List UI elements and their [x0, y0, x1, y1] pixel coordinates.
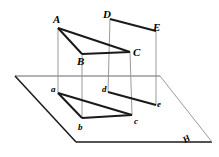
vertex-label-c: c — [134, 117, 138, 126]
edge-D-E — [110, 19, 156, 31]
vertex-label-e: e — [157, 100, 161, 109]
vertex-label-b: b — [78, 123, 83, 132]
edge-B-C — [82, 52, 130, 54]
vertex-label-C: C — [133, 47, 140, 58]
vertex-label-E: E — [153, 22, 160, 33]
vertex-label-a: a — [51, 85, 56, 94]
vertex-label-D: D — [103, 9, 111, 20]
vertex-label-B: B — [77, 56, 84, 67]
vertex-label-A: A — [53, 14, 60, 25]
vertex-label-d: d — [102, 85, 107, 94]
projection-figure: A B C D E a b c d e H — [0, 0, 219, 157]
upper-figure-edges — [58, 19, 156, 54]
